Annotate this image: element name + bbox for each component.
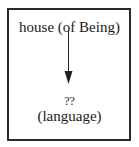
unknown-marker: ??: [0, 94, 139, 108]
bottom-node-label: (language): [0, 107, 139, 125]
